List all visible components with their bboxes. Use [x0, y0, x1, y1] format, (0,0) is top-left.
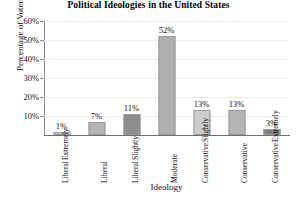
y-axis-tick-label: 10% [23, 111, 39, 121]
bar-group: 7% [79, 21, 114, 135]
x-tick-label-line: Liberal [101, 161, 109, 183]
bar-value-label: 13% [194, 99, 210, 109]
x-tick-label-line: Liberal [62, 161, 70, 183]
y-axis-tick-label: 50% [23, 35, 39, 45]
y-axis-tick-label: 40% [23, 54, 39, 64]
bar-chart: Political Ideologies in the United State… [0, 0, 297, 203]
bars-container: 1%7%11%52%13%13%3% [44, 21, 289, 135]
y-axis-tick-label: 20% [23, 92, 39, 102]
x-tick-label-line: Conservative [241, 143, 249, 183]
y-axis-tick-label: 60% [23, 16, 39, 26]
bar[interactable] [123, 114, 140, 135]
y-axis-tick-label: 30% [23, 73, 39, 83]
x-tick-label-line: Conservative [272, 143, 280, 183]
bar-group: 1% [44, 21, 79, 135]
bar-value-label: 11% [124, 103, 139, 113]
x-tick-label-line: Liberal [132, 161, 140, 183]
x-axis-title: Ideology [44, 182, 289, 192]
x-tick-label-line: Moderate [171, 154, 179, 183]
bar-group: 11% [114, 21, 149, 135]
bar-value-label: 13% [229, 99, 245, 109]
bar[interactable] [88, 122, 105, 135]
bar-value-label: 52% [159, 25, 175, 35]
chart-title: Political Ideologies in the United State… [0, 0, 297, 10]
x-axis-line [44, 135, 290, 136]
bar-group: 13% [219, 21, 254, 135]
bar[interactable] [228, 110, 245, 135]
bar[interactable] [158, 36, 175, 135]
x-tick-label-line: Slightly [132, 136, 140, 160]
x-tick-label-line: Extremely [272, 110, 280, 142]
bar-group: 52% [149, 21, 184, 135]
bar-value-label: 7% [91, 111, 102, 121]
x-tick-labels: ExtremelyLiberalLiberalSlightlyLiberalMo… [44, 137, 289, 185]
x-tick-label-line: Extremely [62, 128, 70, 160]
x-tick-label-line: Conservative [202, 143, 210, 183]
x-tick-label-line: Slightly [202, 118, 210, 142]
